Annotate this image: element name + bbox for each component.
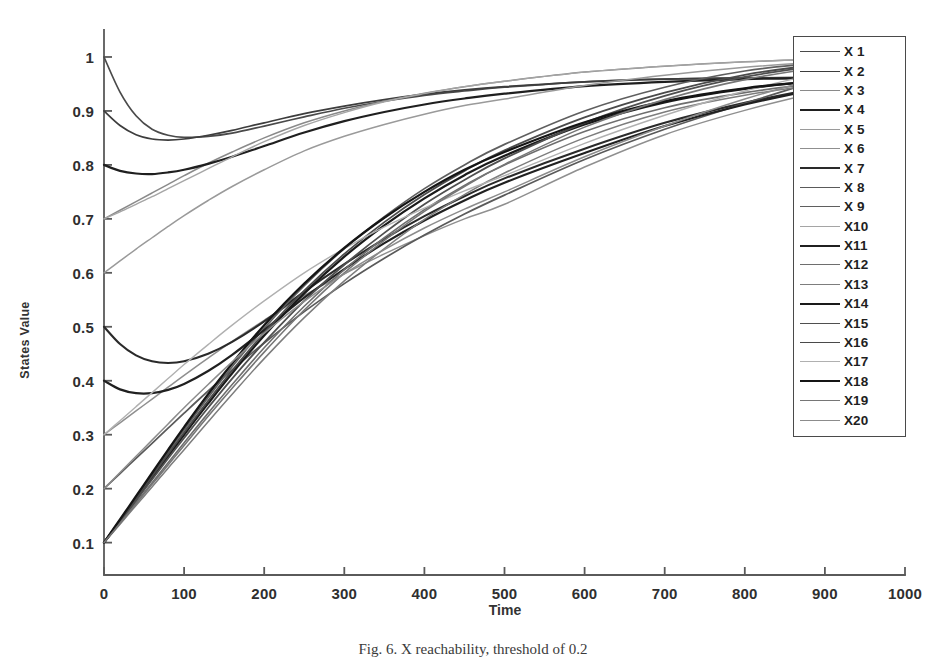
legend-line-icon — [800, 303, 840, 305]
legend-item[interactable]: X 2 — [794, 61, 905, 80]
legend-line-icon — [800, 264, 840, 265]
x-axis-title: Time — [489, 602, 521, 618]
legend-line-icon — [800, 148, 840, 149]
y-tick-label: 0.5 — [40, 318, 94, 335]
series-curves — [104, 57, 905, 543]
legend-item-label: X19 — [844, 393, 868, 408]
legend-line-icon — [800, 206, 840, 207]
legend-item[interactable]: X10 — [794, 217, 905, 236]
chart-legend: X 1X 2X 3X 4X 5X 6X 7X 8X 9X10X11X12X13X… — [793, 36, 906, 437]
legend-item[interactable]: X 6 — [794, 139, 905, 158]
axes-spines — [104, 30, 905, 575]
x-tick-label: 100 — [171, 585, 197, 602]
legend-line-icon — [800, 361, 840, 362]
series-line — [104, 77, 905, 543]
series-line — [104, 77, 905, 363]
legend-item[interactable]: X 7 — [794, 158, 905, 177]
legend-item-label: X12 — [844, 257, 868, 272]
legend-item[interactable]: X11 — [794, 236, 905, 255]
legend-item-label: X 6 — [844, 141, 865, 156]
y-tick-label: 0.1 — [40, 534, 94, 551]
x-tick-label: 600 — [572, 585, 598, 602]
figure-container: 0.10.20.30.40.50.60.70.80.91 01002003004… — [0, 0, 947, 657]
series-line — [104, 57, 905, 489]
y-tick-label: 1 — [40, 48, 94, 65]
legend-item-label: X15 — [844, 316, 868, 331]
legend-item[interactable]: X 5 — [794, 120, 905, 139]
y-tick-label: 0.3 — [40, 426, 94, 443]
legend-line-icon — [800, 342, 840, 343]
legend-line-icon — [800, 71, 840, 72]
legend-item-label: X 3 — [844, 83, 865, 98]
legend-item[interactable]: X12 — [794, 255, 905, 274]
legend-item-label: X13 — [844, 277, 868, 292]
x-tick-label: 1000 — [888, 585, 922, 602]
legend-line-icon — [800, 380, 840, 382]
legend-item-label: X 4 — [844, 102, 865, 117]
legend-item-label: X 5 — [844, 122, 865, 137]
legend-line-icon — [800, 400, 840, 401]
y-tick-label: 0.9 — [40, 102, 94, 119]
legend-item[interactable]: X20 — [794, 410, 905, 429]
legend-line-icon — [800, 420, 840, 421]
legend-line-icon — [800, 323, 840, 324]
legend-item-label: X16 — [844, 335, 868, 350]
legend-line-icon — [800, 284, 840, 285]
x-tick-label: 900 — [812, 585, 838, 602]
legend-item-label: X11 — [844, 238, 868, 253]
legend-item[interactable]: X 8 — [794, 178, 905, 197]
y-tick-label: 0.4 — [40, 372, 94, 389]
x-tick-label: 800 — [732, 585, 758, 602]
y-tick-label: 0.2 — [40, 480, 94, 497]
legend-item[interactable]: X 9 — [794, 197, 905, 216]
x-tick-label: 200 — [251, 585, 277, 602]
legend-line-icon — [800, 226, 840, 227]
legend-item-label: X 9 — [844, 199, 865, 214]
y-axis-title: States Value — [18, 301, 32, 378]
legend-item-label: X 1 — [844, 44, 865, 59]
legend-item[interactable]: X18 — [794, 372, 905, 391]
x-tick-label: 500 — [492, 585, 518, 602]
legend-line-icon — [800, 167, 840, 169]
legend-item[interactable]: X 1 — [794, 42, 905, 61]
legend-line-icon — [800, 51, 840, 52]
legend-line-icon — [800, 187, 840, 188]
legend-item-label: X20 — [844, 413, 868, 428]
series-line — [104, 57, 905, 543]
series-line — [104, 77, 905, 543]
legend-item-label: X10 — [844, 219, 868, 234]
legend-item[interactable]: X17 — [794, 352, 905, 371]
series-line — [104, 57, 905, 489]
legend-item-label: X14 — [844, 296, 868, 311]
series-line — [104, 57, 905, 543]
legend-line-icon — [800, 90, 840, 91]
legend-item-label: X 8 — [844, 180, 865, 195]
legend-item-label: X17 — [844, 354, 868, 369]
legend-item-label: X 2 — [844, 64, 865, 79]
x-tick-label: 700 — [652, 585, 678, 602]
series-line — [104, 57, 905, 543]
legend-item[interactable]: X13 — [794, 275, 905, 294]
x-tick-label: 400 — [412, 585, 438, 602]
series-line — [104, 57, 905, 543]
legend-item-label: X18 — [844, 374, 868, 389]
legend-item[interactable]: X15 — [794, 313, 905, 332]
y-tick-label: 0.6 — [40, 264, 94, 281]
figure-caption: Fig. 6. X reachability, threshold of 0.2 — [359, 641, 588, 657]
legend-item[interactable]: X 4 — [794, 100, 905, 119]
y-tick-label: 0.8 — [40, 156, 94, 173]
legend-line-icon — [800, 109, 840, 111]
legend-item-label: X 7 — [844, 161, 865, 176]
series-line — [104, 77, 905, 543]
series-line — [104, 77, 905, 543]
x-tick-label: 0 — [100, 585, 109, 602]
legend-line-icon — [800, 129, 840, 130]
legend-line-icon — [800, 245, 840, 247]
y-tick-label: 0.7 — [40, 210, 94, 227]
legend-item[interactable]: X14 — [794, 294, 905, 313]
x-tick-label: 300 — [331, 585, 357, 602]
legend-item[interactable]: X19 — [794, 391, 905, 410]
legend-item[interactable]: X16 — [794, 333, 905, 352]
legend-item[interactable]: X 3 — [794, 81, 905, 100]
